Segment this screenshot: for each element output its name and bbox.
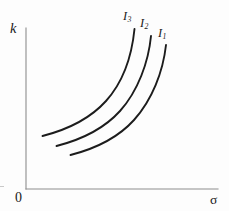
curve-label-i3: I3: [123, 10, 131, 23]
curve-label-i2: I2: [140, 17, 148, 30]
indifference-curve-i3: [43, 29, 135, 136]
curve-label-i3-subscript: 3: [127, 15, 131, 24]
indifference-curve-i2: [57, 36, 152, 146]
x-axis-label: σ: [210, 193, 217, 207]
plot-canvas: [0, 0, 229, 211]
indifference-curve-i1: [71, 45, 167, 155]
curve-label-i1: I1: [158, 27, 166, 40]
indifference-curve-figure: k σ 0 I3 I2 I1: [0, 0, 229, 211]
edge-artifact: [0, 186, 4, 187]
origin-label: 0: [15, 191, 22, 205]
curve-label-i2-subscript: 2: [144, 22, 148, 31]
curve-label-i1-subscript: 1: [162, 32, 166, 41]
y-axis-label: k: [10, 21, 16, 36]
